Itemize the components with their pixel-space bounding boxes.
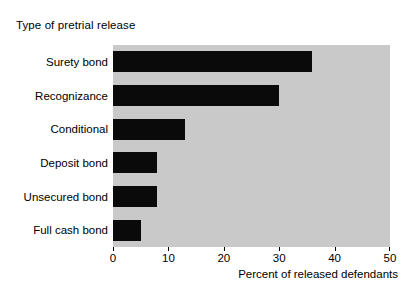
x-tick-mark-30 <box>279 247 280 251</box>
y-axis-category-labels: Surety bondRecognizanceConditionalDeposi… <box>0 45 108 247</box>
plot-area <box>113 45 390 247</box>
bars-layer <box>113 45 390 247</box>
bar-conditional <box>113 119 185 140</box>
chart-title: Type of pretrial release <box>16 19 135 31</box>
x-tick-label-20: 20 <box>217 252 230 264</box>
category-label-full-cash-bond: Full cash bond <box>0 224 108 236</box>
x-tick-label-50: 50 <box>384 252 397 264</box>
bar-deposit-bond <box>113 152 157 173</box>
x-tick-mark-50 <box>389 247 390 251</box>
bar-recognizance <box>113 85 279 106</box>
category-label-unsecured-bond: Unsecured bond <box>0 191 108 203</box>
category-label-surety-bond: Surety bond <box>0 56 108 68</box>
x-tick-label-10: 10 <box>162 252 175 264</box>
category-label-conditional: Conditional <box>0 123 108 135</box>
x-tick-mark-40 <box>335 247 336 251</box>
x-tick-label-40: 40 <box>328 252 341 264</box>
category-label-deposit-bond: Deposit bond <box>0 157 108 169</box>
x-tick-mark-0 <box>113 247 114 251</box>
x-tick-label-0: 0 <box>110 252 116 264</box>
x-tick-mark-20 <box>224 247 225 251</box>
x-axis-label: Percent of released defendants <box>0 268 398 280</box>
bar-chart: Type of pretrial release Surety bondReco… <box>0 0 414 291</box>
bar-full-cash-bond <box>113 220 141 241</box>
category-label-recognizance: Recognizance <box>0 90 108 102</box>
x-tick-label-30: 30 <box>273 252 286 264</box>
bar-surety-bond <box>113 51 312 72</box>
bar-unsecured-bond <box>113 186 157 207</box>
x-tick-mark-10 <box>168 247 169 251</box>
